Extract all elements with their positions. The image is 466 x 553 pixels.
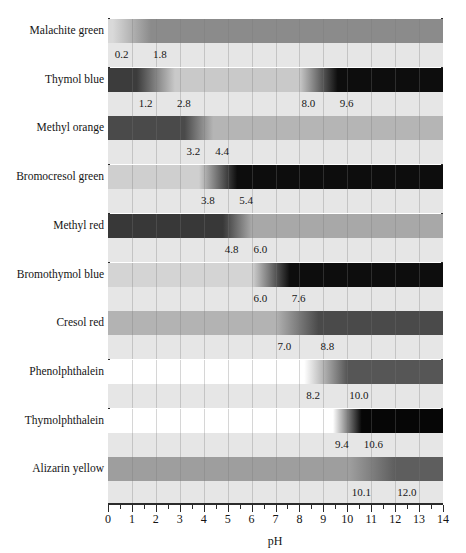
gridline — [228, 335, 229, 359]
gridline — [156, 287, 157, 311]
gridline — [204, 481, 205, 505]
gridline — [299, 92, 300, 116]
gridline — [371, 92, 372, 116]
gridline — [419, 287, 420, 311]
x-tick-label: 9 — [320, 513, 326, 525]
gridline — [156, 238, 157, 262]
gridlines — [108, 433, 443, 457]
x-tick-minor — [311, 505, 312, 509]
transition-high-label: 10.0 — [349, 390, 368, 401]
gridline — [132, 287, 133, 311]
gridline — [252, 43, 253, 67]
gridline — [132, 481, 133, 505]
gridlines — [108, 287, 443, 311]
gridline — [276, 92, 277, 116]
indicator-range-strip: 3.24.4 — [108, 140, 443, 164]
x-tick-label: 6 — [249, 513, 255, 525]
x-tick-minor — [216, 505, 217, 509]
transition-low-label: 8.0 — [301, 98, 315, 109]
indicator-name: Bromocresol green — [16, 171, 104, 183]
gridline — [347, 140, 348, 164]
x-tick-major — [276, 505, 277, 512]
x-tick-minor — [335, 505, 336, 509]
gridline — [228, 384, 229, 408]
x-tick-minor — [407, 505, 408, 509]
gridline — [276, 384, 277, 408]
indicator-range-strip: 7.08.8 — [108, 335, 443, 359]
gridline — [156, 189, 157, 213]
x-tick-minor — [240, 505, 241, 509]
gridline — [156, 481, 157, 505]
indicator-color-band — [108, 457, 443, 481]
x-tick-major — [419, 505, 420, 512]
x-tick-minor — [168, 505, 169, 509]
gridline — [228, 43, 229, 67]
gridline — [419, 384, 420, 408]
gridline — [180, 287, 181, 311]
transition-low-label: 6.0 — [254, 293, 268, 304]
gridline — [276, 433, 277, 457]
x-tick-label: 4 — [201, 513, 207, 525]
gridline — [299, 43, 300, 67]
color-gradient — [108, 360, 443, 384]
x-axis-title: pH — [0, 534, 466, 549]
gridline — [419, 433, 420, 457]
gridline — [132, 92, 133, 116]
color-gradient — [108, 19, 443, 43]
gridline — [132, 335, 133, 359]
x-tick-label: 11 — [365, 513, 377, 525]
transition-low-label: 3.8 — [201, 195, 215, 206]
gridline — [395, 238, 396, 262]
gridlines — [108, 384, 443, 408]
x-axis-title-text: pH — [268, 534, 283, 548]
gridline — [323, 92, 324, 116]
gridline — [276, 43, 277, 67]
x-tick-label: 2 — [153, 513, 159, 525]
x-tick-minor — [264, 505, 265, 509]
gridline — [395, 384, 396, 408]
x-tick-label: 0 — [105, 513, 111, 525]
ph-indicator-chart: 0.21.81.22.88.09.63.24.43.85.44.86.06.07… — [0, 0, 466, 553]
x-tick-minor — [287, 505, 288, 509]
indicator-color-band — [108, 409, 443, 433]
indicator-name: Methyl red — [53, 220, 104, 232]
gridline — [371, 140, 372, 164]
indicator-color-band — [108, 116, 443, 140]
gridline — [180, 238, 181, 262]
transition-high-label: 2.8 — [177, 98, 191, 109]
x-tick-major — [395, 505, 396, 512]
gridline — [252, 92, 253, 116]
color-gradient — [108, 311, 443, 335]
gridline — [419, 140, 420, 164]
x-tick-minor — [431, 505, 432, 509]
gridline — [156, 384, 157, 408]
gridline — [204, 92, 205, 116]
gridlines — [108, 189, 443, 213]
gridline — [323, 384, 324, 408]
gridline — [419, 238, 420, 262]
x-tick-major — [156, 505, 157, 512]
transition-high-label: 12.0 — [397, 487, 416, 498]
gridlines — [108, 335, 443, 359]
x-tick-label: 12 — [389, 513, 401, 525]
transition-low-label: 7.0 — [278, 341, 292, 352]
x-tick-label: 8 — [296, 513, 302, 525]
gridline — [180, 189, 181, 213]
indicator-color-band — [108, 68, 443, 92]
gridline — [276, 335, 277, 359]
x-tick-major — [204, 505, 205, 512]
indicator-range-strip: 10.112.0 — [108, 481, 443, 505]
gridline — [347, 287, 348, 311]
x-tick-major — [228, 505, 229, 512]
indicator-color-band — [108, 311, 443, 335]
gridline — [276, 140, 277, 164]
gridline — [419, 92, 420, 116]
transition-high-label: 9.6 — [340, 98, 354, 109]
indicator-range-strip: 4.86.0 — [108, 238, 443, 262]
gridline — [180, 140, 181, 164]
gridline — [395, 481, 396, 505]
color-gradient — [108, 68, 443, 92]
gridline — [252, 433, 253, 457]
indicator-name: Methyl orange — [37, 122, 104, 134]
gridline — [395, 335, 396, 359]
